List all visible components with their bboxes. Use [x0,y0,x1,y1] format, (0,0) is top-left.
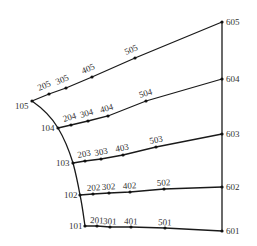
node-label-602: 602 [226,182,240,192]
node-105 [30,99,33,102]
node-102 [78,193,81,196]
node-302 [107,191,110,194]
node-label-605: 605 [226,17,240,27]
node-204 [69,123,72,126]
mesh-diagram: 1012013014015016011022023024025026021032… [0,0,257,246]
node-label-201: 201 [90,215,104,225]
background [0,0,257,246]
node-605 [220,20,223,23]
node-505 [133,56,136,59]
node-104 [56,126,59,129]
node-label-202: 202 [87,182,101,193]
node-203 [83,159,86,162]
node-label-103: 103 [56,158,70,168]
node-504 [144,99,147,102]
node-label-402: 402 [123,180,137,191]
node-604 [220,77,223,80]
node-label-501: 501 [158,217,172,227]
node-602 [220,185,223,188]
node-label-604: 604 [226,74,240,84]
node-305 [64,86,67,89]
node-405 [90,75,93,78]
node-603 [220,132,223,135]
node-label-101: 101 [69,221,83,231]
node-label-301: 301 [103,216,117,226]
node-304 [86,119,89,122]
node-303 [99,157,102,160]
node-label-302: 302 [102,181,116,192]
node-205 [47,92,50,95]
node-label-603: 603 [226,129,240,139]
node-label-502: 502 [157,177,171,188]
node-403 [121,153,124,156]
node-label-401: 401 [124,216,138,226]
node-404 [106,114,109,117]
node-label-601: 601 [226,226,240,236]
node-601 [220,229,223,232]
node-101 [83,224,86,227]
node-503 [154,145,157,148]
node-label-104: 104 [41,123,55,133]
node-label-102: 102 [64,190,78,200]
node-502 [162,187,165,190]
node-label-105: 105 [15,101,29,111]
node-202 [91,192,94,195]
node-402 [128,190,131,193]
node-103 [71,161,74,164]
